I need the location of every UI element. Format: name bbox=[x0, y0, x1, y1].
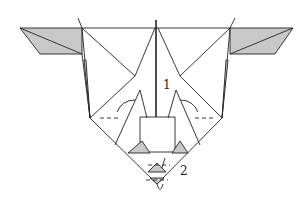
step-label-2: 2 bbox=[180, 164, 188, 178]
fold-arrow-2 bbox=[162, 158, 165, 168]
step-label-1: 1 bbox=[163, 78, 171, 92]
origami-diagram bbox=[0, 0, 305, 207]
